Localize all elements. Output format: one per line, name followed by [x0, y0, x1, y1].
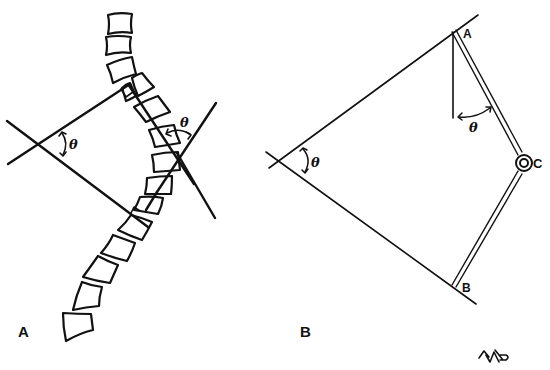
vertebra-12: [83, 256, 118, 283]
hinge-inner-ring: [520, 159, 528, 167]
lower-reference-line: [266, 152, 476, 304]
theta-arc-right: [459, 108, 490, 117]
theta-label-a-left: θ: [69, 137, 78, 152]
theta-arc-left: [303, 149, 308, 172]
vertebra-14: [63, 313, 93, 341]
vertebra-13: [73, 282, 102, 310]
lower-perp-extension: [177, 153, 215, 218]
angle-arrows-b: [300, 107, 491, 173]
arm-a-c-edge: [456, 30, 522, 152]
theta-arc-left: [62, 133, 66, 155]
upper-reference-line: [269, 15, 478, 168]
cobb-lines: [7, 84, 216, 227]
hinge-c: [516, 155, 532, 171]
panel-a-label: A: [18, 323, 29, 340]
vertebra-11: [101, 235, 135, 261]
point-label-a: A: [463, 27, 472, 41]
artist-signature: [479, 350, 508, 362]
hinge-outer-ring: [516, 155, 532, 171]
panel-b-lines: [266, 15, 478, 304]
point-label-b: B: [462, 281, 471, 295]
upper-endplate-line: [8, 84, 130, 164]
vertebra-2: [106, 36, 131, 55]
vertebra-1: [108, 13, 132, 34]
theta-label-b-right: θ: [469, 120, 478, 135]
theta-label-b-left: θ: [311, 155, 320, 170]
vertebra-6: [149, 125, 180, 147]
panel-b-label: B: [300, 323, 311, 340]
theta-label-a-right: θ: [180, 115, 189, 130]
arm-a-c: [452, 30, 522, 155]
arrowhead: [186, 132, 191, 139]
arm-c-b-edge: [452, 171, 518, 285]
point-label-c: C: [533, 156, 543, 171]
signature-glyph: [479, 350, 508, 362]
panel-a: θ θ A: [7, 13, 216, 341]
cobb-angle-diagram: θ θ A: [0, 0, 550, 370]
arm-a-c-edge: [452, 32, 518, 155]
arm-c-b: [452, 171, 522, 287]
panel-b: θ θ A B C B: [266, 15, 543, 340]
arm-c-b-edge: [456, 174, 522, 287]
